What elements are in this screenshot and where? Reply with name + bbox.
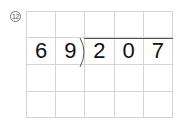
grid-cell[interactable]	[85, 12, 114, 38]
grid-cell[interactable]	[115, 92, 144, 118]
grid-cell[interactable]	[144, 92, 173, 118]
grid-cell[interactable]	[144, 65, 173, 91]
problem-number-label: 12	[10, 11, 21, 22]
grid-cell[interactable]	[144, 12, 173, 38]
divisor-digit: 6	[27, 38, 56, 65]
division-bar	[84, 38, 173, 39]
grid-cell[interactable]	[56, 92, 85, 118]
long-division-grid: 6 9 2 0 7	[26, 11, 173, 118]
grid-cell[interactable]	[27, 65, 56, 91]
grid-cell[interactable]	[85, 92, 114, 118]
grid-cell[interactable]	[85, 65, 114, 91]
grid-cell[interactable]	[56, 65, 85, 91]
division-bracket-icon	[77, 38, 87, 67]
grid-cell[interactable]	[115, 12, 144, 38]
dividend-digit: 0	[115, 38, 144, 65]
grid-cell[interactable]	[115, 65, 144, 91]
grid-cell[interactable]	[27, 12, 56, 38]
dividend-digit: 2	[85, 38, 114, 65]
grid-cell[interactable]	[56, 12, 85, 38]
grid-cell[interactable]	[27, 92, 56, 118]
dividend-digit: 7	[144, 38, 173, 65]
